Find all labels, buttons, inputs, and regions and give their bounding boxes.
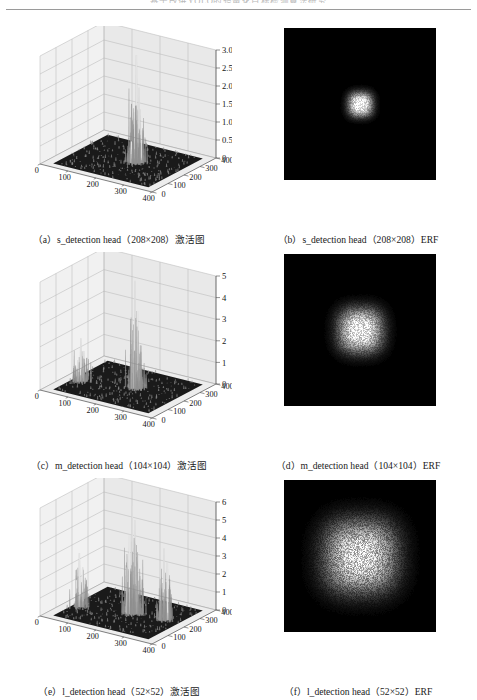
svg-text:100: 100 — [173, 181, 185, 190]
svg-text:300: 300 — [205, 164, 217, 173]
caption-d: （d）m_detection head（104×104）ERF — [239, 460, 477, 472]
svg-text:100: 100 — [173, 633, 185, 642]
figure-row-3: 010020030040001002003004000123456 （e）l_d… — [0, 474, 477, 700]
svg-text:0: 0 — [35, 618, 39, 627]
erf-heatmap-f — [284, 480, 436, 632]
svg-text:2: 2 — [222, 569, 226, 579]
svg-text:200: 200 — [189, 625, 201, 634]
surface-plot-c: 01002003004000100200300400012345 — [10, 252, 232, 444]
svg-text:0: 0 — [161, 642, 165, 651]
svg-text:100: 100 — [59, 173, 71, 182]
surface-plot-e: 010020030040001002003004000123456 — [10, 478, 232, 670]
svg-text:3.0: 3.0 — [222, 45, 232, 55]
svg-text:1: 1 — [222, 587, 226, 597]
erf-canvas-d — [284, 254, 436, 406]
erf-heatmap-d — [284, 254, 436, 406]
svg-text:0.5: 0.5 — [222, 135, 232, 145]
erf-heatmap-b — [284, 28, 436, 180]
svg-text:0: 0 — [222, 605, 226, 615]
svg-text:400: 400 — [143, 646, 155, 655]
erf-canvas-b — [284, 28, 436, 180]
svg-text:3: 3 — [222, 314, 226, 324]
svg-text:1.5: 1.5 — [222, 99, 232, 109]
caption-a: （a）s_detection head（208×208）激活图 — [0, 234, 238, 246]
svg-text:200: 200 — [87, 632, 99, 641]
svg-text:0: 0 — [222, 153, 226, 163]
figure-panel-a: 0100200300400010020030040000.51.01.52.02… — [0, 22, 238, 248]
svg-text:0: 0 — [161, 190, 165, 199]
svg-text:200: 200 — [87, 180, 99, 189]
svg-text:200: 200 — [189, 173, 201, 182]
figure-row-2: 01002003004000100200300400012345 （c）m_de… — [0, 248, 477, 474]
svg-text:200: 200 — [189, 399, 201, 408]
svg-text:3: 3 — [222, 551, 226, 561]
figure-row-1: 0100200300400010020030040000.51.01.52.02… — [0, 22, 477, 248]
caption-c: （c）m_detection head（104×104）激活图 — [0, 460, 238, 472]
svg-text:0: 0 — [222, 379, 226, 389]
svg-text:0: 0 — [35, 392, 39, 401]
svg-text:1.0: 1.0 — [222, 117, 232, 127]
figure-panel-b: （b）s_detection head（208×208）ERF — [239, 22, 477, 248]
svg-text:2.5: 2.5 — [222, 63, 232, 73]
svg-text:4: 4 — [222, 293, 227, 303]
caption-f: （f）l_detection head（52×52）ERF — [239, 686, 477, 698]
svg-text:2.0: 2.0 — [222, 81, 232, 91]
erf-canvas-f — [284, 480, 436, 632]
svg-text:5: 5 — [222, 515, 226, 525]
svg-text:400: 400 — [143, 194, 155, 203]
figure-panel-f: （f）l_detection head（52×52）ERF — [239, 474, 477, 700]
figure-panel-e: 010020030040001002003004000123456 （e）l_d… — [0, 474, 238, 700]
svg-text:100: 100 — [59, 399, 71, 408]
caption-b: （b）s_detection head（208×208）ERF — [239, 234, 477, 246]
svg-text:6: 6 — [222, 497, 227, 507]
svg-text:300: 300 — [115, 639, 127, 648]
running-head: 基于改进YOLO的轻量化目标检测算法研究 — [0, 0, 477, 3]
surface-plot-a: 0100200300400010020030040000.51.01.52.02… — [10, 26, 232, 218]
figure-panel-c: 01002003004000100200300400012345 （c）m_de… — [0, 248, 238, 474]
svg-text:0: 0 — [161, 416, 165, 425]
svg-text:4: 4 — [222, 533, 227, 543]
figure-panel-d: （d）m_detection head（104×104）ERF — [239, 248, 477, 474]
svg-text:1: 1 — [222, 358, 226, 368]
figure-grid: 0100200300400010020030040000.51.01.52.02… — [0, 22, 477, 700]
svg-text:300: 300 — [205, 390, 217, 399]
svg-text:2: 2 — [222, 336, 226, 346]
svg-text:0: 0 — [35, 166, 39, 175]
svg-text:300: 300 — [115, 187, 127, 196]
svg-text:5: 5 — [222, 271, 226, 281]
svg-text:300: 300 — [115, 413, 127, 422]
svg-text:100: 100 — [59, 625, 71, 634]
svg-text:100: 100 — [173, 407, 185, 416]
svg-text:300: 300 — [205, 616, 217, 625]
caption-e: （e）l_detection head（52×52）激活图 — [0, 686, 238, 698]
svg-text:200: 200 — [87, 406, 99, 415]
svg-text:400: 400 — [143, 420, 155, 429]
header-rule — [6, 9, 471, 10]
